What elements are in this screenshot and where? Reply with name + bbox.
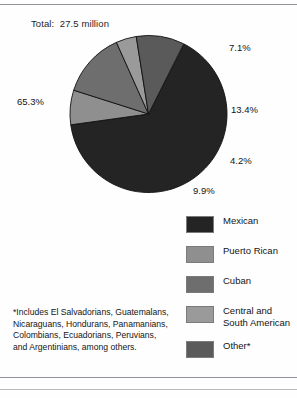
legend-label-cuban: Cuban	[223, 275, 251, 287]
pie-chart-figure: Total: 27.5 million 65.3% 7.1% 13.4% 4.2…	[0, 0, 297, 398]
legend-item-mexican: Mexican	[186, 215, 294, 233]
legend-swatch-other	[186, 341, 214, 358]
legend-label-central-line1: Central and	[223, 305, 272, 316]
slice-label-cuban: 13.4%	[231, 104, 258, 115]
pie-slices	[70, 36, 227, 193]
legend-label-other: Other*	[223, 340, 250, 352]
footnote-line-3: Colombians, Ecuadorians, Peruvians,	[13, 330, 183, 342]
slice-label-other: 9.9%	[193, 185, 215, 196]
legend-swatch-cuban	[186, 276, 214, 293]
legend-item-cuban: Cuban	[186, 275, 294, 293]
legend-swatch-central-south-american	[186, 306, 214, 323]
footnote-line-4: and Argentinians, among others.	[13, 342, 183, 354]
footnote-line-2: Nicaraguans, Hondurans, Panamanians,	[13, 319, 183, 331]
bottom-divider	[0, 377, 297, 378]
bottom-divider-secondary	[0, 389, 297, 390]
slice-label-central-south-american: 4.2%	[230, 155, 252, 166]
legend-item-central-south-american: Central andSouth American	[186, 305, 294, 328]
slice-label-mexican: 65.3%	[17, 96, 44, 107]
legend-item-puerto-rican: Puerto Rican	[186, 245, 294, 263]
slice-label-puerto-rican: 7.1%	[229, 42, 251, 53]
legend-label-central-line2: South American	[223, 317, 290, 328]
legend-label-mexican: Mexican	[223, 215, 258, 227]
legend-swatch-mexican	[186, 216, 214, 233]
legend-swatch-puerto-rican	[186, 246, 214, 263]
legend-label-puerto-rican: Puerto Rican	[223, 245, 278, 257]
footnote-line-1: *Includes El Salvadorians, Guatemalans,	[13, 307, 183, 319]
legend-item-other: Other*	[186, 340, 294, 358]
legend-label-central-south-american: Central andSouth American	[223, 305, 290, 328]
legend: Mexican Puerto Rican Cuban Central andSo…	[186, 215, 294, 358]
pie-chart-area: 65.3% 7.1% 13.4% 4.2% 9.9%	[0, 0, 297, 220]
footnote: *Includes El Salvadorians, Guatemalans, …	[13, 307, 183, 353]
